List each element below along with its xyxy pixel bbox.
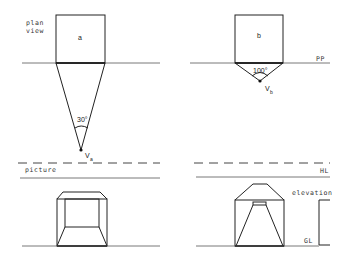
vanishing-subscript-b: b — [270, 89, 273, 95]
perspective-box-a — [57, 192, 107, 246]
plan-label-line2: view — [26, 27, 44, 35]
elevation-label: elevation — [292, 189, 333, 197]
vanishing-point-b — [258, 79, 261, 82]
perspective-box-b — [235, 184, 284, 246]
elevation-bracket — [319, 200, 330, 245]
gl-label: GL — [304, 237, 313, 245]
square-a-label: a — [78, 34, 82, 41]
angle-arc-a — [75, 126, 88, 128]
angle-label-a: 30° — [77, 116, 88, 123]
vanishing-subscript-a: a — [90, 156, 93, 162]
vanishing-point-a — [79, 148, 82, 151]
square-b-label: b — [257, 32, 261, 39]
perspective-diagram: plan view a 30° V a b PP 100° V b pictur… — [0, 0, 343, 261]
sightline-a-left — [56, 63, 81, 150]
sightline-a-right — [81, 63, 105, 150]
picture-label: picture — [25, 166, 57, 174]
pp-label: PP — [316, 55, 325, 63]
angle-label-b: 100° — [253, 67, 268, 74]
plan-label-line1: plan — [26, 19, 44, 27]
plan-square-b — [235, 15, 283, 63]
hl-label: HL — [320, 167, 329, 175]
